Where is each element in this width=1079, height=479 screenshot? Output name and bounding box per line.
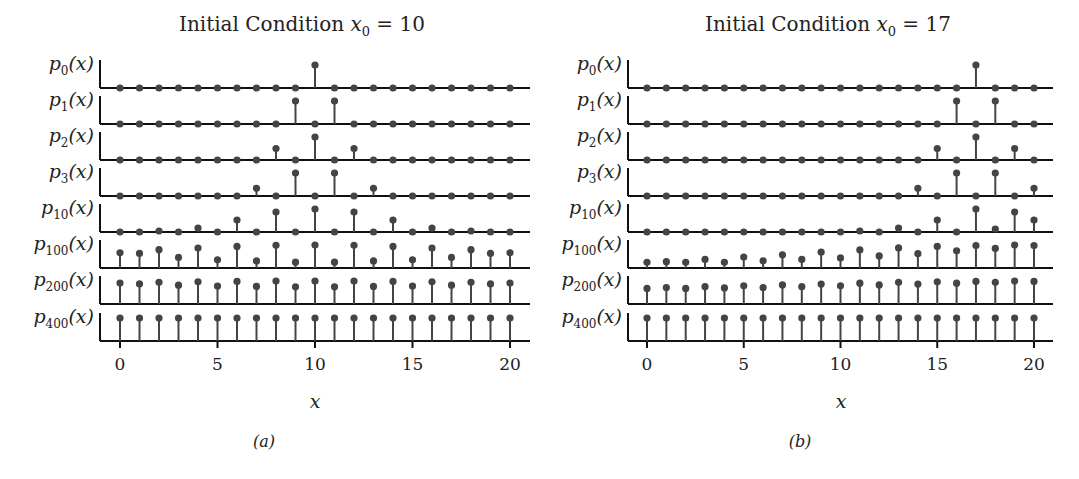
stem-marker [721,120,728,127]
stem-marker [972,242,979,249]
stem-marker [992,279,999,286]
stem-marker [992,97,999,104]
stem-marker [740,253,747,260]
stem-marker [682,156,689,163]
stem-marker [895,84,902,91]
stem-marker [701,283,708,290]
stem-marker [663,228,670,235]
stem-marker [1011,84,1018,91]
stem-marker [682,192,689,199]
stem-marker [876,228,883,235]
row-label: p200(x) [561,268,622,294]
stem-marker [914,120,921,127]
stem-marker [972,120,979,127]
stem-marker [856,280,863,287]
panel-b-caption: (b) [789,432,812,451]
stem-marker [837,254,844,261]
stem-marker [876,156,883,163]
stem-marker [1030,84,1037,91]
stem-marker [701,84,708,91]
stem-marker [856,246,863,253]
stem-marker [837,228,844,235]
stem-marker [1011,192,1018,199]
stem-marker [953,84,960,91]
x-tick-label: 20 [1023,354,1045,374]
stem-marker [895,279,902,286]
stem-marker [837,282,844,289]
stem-marker [779,228,786,235]
stem-marker [643,156,650,163]
stem-marker [934,216,941,223]
stem-marker [1030,156,1037,163]
stem-marker [643,120,650,127]
stem-marker [972,278,979,285]
stem-marker [876,120,883,127]
stem-marker [682,228,689,235]
stem-marker [798,84,805,91]
stem-marker [1011,314,1018,321]
stem-marker [876,84,883,91]
stem-marker [953,228,960,235]
stem-marker [856,84,863,91]
stem-marker [1011,120,1018,127]
stem-marker [663,258,670,265]
stem-marker [798,228,805,235]
stem-marker [1030,216,1037,223]
stem-marker [663,156,670,163]
row-label: p400(x) [561,305,622,331]
stem-marker [934,192,941,199]
stem-marker [837,156,844,163]
stem-marker [721,192,728,199]
stem-marker [895,120,902,127]
stem-marker [953,97,960,104]
stem-marker [1030,314,1037,321]
stem-marker [760,120,767,127]
stem-marker [740,156,747,163]
stem-marker [740,314,747,321]
stem-marker [934,314,941,321]
stem-marker [798,192,805,199]
stem-marker [701,156,708,163]
stem-marker [682,120,689,127]
stem-marker [914,250,921,257]
x-tick-label: 15 [926,354,948,374]
stem-marker [895,192,902,199]
stem-marker [818,228,825,235]
stem-marker [837,192,844,199]
row-label: p2(x) [577,124,622,150]
stem-marker [837,314,844,321]
stem-marker [818,84,825,91]
stem-marker [701,120,708,127]
stem-marker [818,192,825,199]
stem-marker [992,156,999,163]
stem-marker [856,314,863,321]
stem-marker [643,192,650,199]
stem-marker [779,192,786,199]
stem-marker [1030,120,1037,127]
stem-marker [643,285,650,292]
stem-marker [1011,145,1018,152]
stem-marker [760,314,767,321]
stem-marker [798,120,805,127]
stem-marker [992,84,999,91]
stem-marker [701,228,708,235]
stem-marker [818,156,825,163]
stem-marker [818,249,825,256]
stem-marker [721,314,728,321]
stem-marker [1030,185,1037,192]
stem-marker [953,169,960,176]
stem-marker [876,314,883,321]
stem-marker [682,84,689,91]
stem-marker [1011,277,1018,284]
row-label: p100(x) [561,232,622,258]
stem-marker [682,314,689,321]
stem-marker [837,120,844,127]
stem-marker [682,259,689,266]
stem-marker [740,282,747,289]
stem-marker [760,84,767,91]
stem-marker [856,192,863,199]
stem-marker [701,192,708,199]
stem-marker [818,314,825,321]
stem-marker [1030,242,1037,249]
stem-marker [934,120,941,127]
